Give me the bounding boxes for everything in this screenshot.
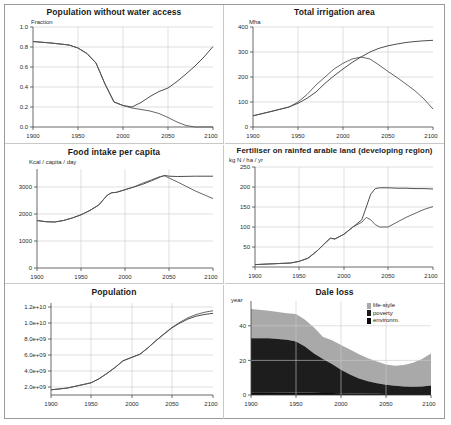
x-tick-labels: 1900 1950 2000 2050 2100 [244,401,436,407]
plot-area: 1.0 0.8 0.6 0.4 0.2 0.0 1900 1950 2000 2… [5,5,224,144]
x-tick-labels: 1900 1950 2000 2050 2100 [246,133,438,139]
x-tick-label: 2100 [424,133,438,139]
chart-panel-population: Population [5,285,224,419]
y-tick-marks [252,167,255,267]
y-tick-label: 6.0e+09 [24,352,47,358]
x-tick-label: 2000 [118,274,132,280]
y-tick-marks [34,187,37,268]
x-tick-label: 2050 [381,133,395,139]
x-tick-labels: 1900 1950 2000 2050 2100 [44,401,218,407]
x-tick-label: 2000 [336,133,350,139]
y-tick-labels: 40 20 0 [239,323,246,398]
y-tick-label: 300 [238,49,249,55]
x-tick-marks [251,395,431,398]
legend-label: life-style [373,302,395,310]
chart-legend: life-style poverty environm. [367,302,399,325]
y-tick-label: 0 [243,392,247,398]
x-tick-label: 1900 [26,133,40,139]
x-tick-label: 2050 [161,133,175,139]
x-tick-label: 2100 [204,401,218,407]
x-tick-label: 1900 [30,274,44,280]
y-tick-label: 100 [240,224,251,230]
legend-swatch-environm [367,318,371,324]
x-tick-label: 1900 [44,401,58,407]
y-tick-label: 0.4 [20,84,29,90]
y-tick-label: 0.8 [20,44,29,50]
x-tick-label: 1900 [244,401,258,407]
y-tick-labels: 250 200 150 100 50 [240,164,251,250]
y-tick-labels: 1.0 0.8 0.6 0.4 0.2 0.0 [20,24,29,130]
y-tick-marks [250,27,253,127]
plot-area: 1.2e+10 1.0e+10 8.0e+09 6.0e+09 4.0e+09 … [5,285,224,419]
x-tick-labels: 1900 1950 2000 2050 2100 [30,274,218,280]
y-tick-label: 0 [245,124,249,130]
y-tick-label: 200 [240,184,251,190]
chart-panel-population-without-water-access: Population without water access Fraction [5,5,224,144]
y-tick-marks [30,27,33,127]
figure-frame: Population without water access Fraction [4,4,445,419]
y-tick-labels: 3000 2000 1000 0 [19,184,33,271]
x-tick-label: 1950 [292,273,306,279]
x-tick-label: 2000 [337,273,351,279]
y-tick-label: 0 [29,265,33,271]
legend-label: poverty [373,310,393,318]
y-tick-label: 50 [243,244,250,250]
x-tick-label: 2050 [162,274,176,280]
x-tick-label: 2100 [422,401,436,407]
x-tick-marks [37,268,213,271]
x-tick-label: 2000 [334,401,348,407]
y-tick-label: 4.0e+09 [24,368,47,374]
y-tick-label: 1.2e+10 [24,304,47,310]
x-tick-label: 2000 [125,401,139,407]
y-tick-label: 3000 [19,184,33,190]
x-tick-label: 1900 [248,273,262,279]
legend-item-life-style: life-style [367,302,399,310]
y-tick-label: 2.0e+09 [24,384,47,390]
x-tick-marks [255,267,433,270]
x-tick-label: 1950 [74,274,88,280]
y-tick-label: 250 [240,164,251,170]
gridlines [253,27,433,127]
x-tick-label: 1950 [71,133,85,139]
y-tick-label: 40 [239,323,246,329]
plot-area: 400 300 200 100 0 1900 1950 2000 2050 21… [225,5,444,144]
y-tick-label: 400 [238,24,249,30]
legend-item-environm: environm. [367,317,399,325]
legend-swatch-life-style [367,303,371,309]
y-tick-label: 20 [239,358,246,364]
y-tick-marks [48,307,51,387]
y-tick-label: 1.0e+10 [24,320,47,326]
x-tick-marks [33,127,213,130]
y-tick-label: 100 [238,99,249,105]
x-tick-label: 1950 [84,401,98,407]
y-tick-label: 0.2 [20,104,29,110]
x-tick-label: 2100 [204,133,218,139]
y-tick-labels: 1.2e+10 1.0e+10 8.0e+09 6.0e+09 4.0e+09 … [24,304,47,390]
y-tick-label: 8.0e+09 [24,336,47,342]
y-tick-label: 2000 [19,211,33,217]
chart-panel-dale-loss: Dale loss year [225,285,444,419]
y-tick-label: 0.6 [20,64,29,70]
y-tick-label: 200 [238,74,249,80]
legend-item-poverty: poverty [367,310,399,318]
gridlines [51,303,213,395]
y-tick-label: 150 [240,204,251,210]
x-tick-label: 1950 [289,401,303,407]
legend-label: environm. [373,317,399,325]
y-tick-marks [248,326,251,395]
chart-panel-total-irrigation-area: Total irrigation area Mha [225,5,444,144]
chart-panel-food-intake-per-capita: Food intake per capita Kcal / capita / d… [5,145,224,284]
x-tick-label: 2050 [381,273,395,279]
gridlines [37,169,213,268]
plot-area: 3000 2000 1000 0 1900 1950 2000 2050 210… [5,145,224,284]
x-tick-label: 2050 [379,401,393,407]
x-tick-label: 2050 [165,401,179,407]
x-tick-label: 1950 [291,133,305,139]
y-tick-label: 1.0 [20,24,29,30]
y-tick-labels: 400 300 200 100 0 [238,24,249,130]
plot-area: 40 20 0 1900 1950 2000 2050 2100 [225,285,444,419]
x-tick-marks [253,127,433,130]
legend-swatch-poverty [367,310,371,316]
y-tick-label: 1000 [19,238,33,244]
x-tick-label: 2000 [116,133,130,139]
